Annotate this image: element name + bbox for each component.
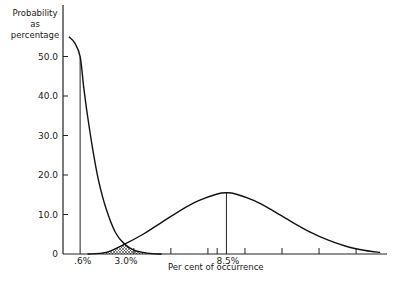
y-tick-label: 0 <box>0 249 58 259</box>
chart-plot <box>0 0 397 285</box>
x-tick-label: .6% <box>74 256 91 266</box>
y-axis-label: Probability as percentage <box>10 8 60 41</box>
y-tick-label: 10.0 <box>0 210 58 220</box>
y-tick-label: 50.0 <box>0 52 58 62</box>
left-distribution-curve <box>69 37 162 254</box>
right-distribution-curve <box>88 193 381 254</box>
y-tick-label: 40.0 <box>0 91 58 101</box>
x-tick-label: 3.0% <box>115 256 138 266</box>
plot-area <box>63 5 387 254</box>
y-tick-label: 20.0 <box>0 170 58 180</box>
y-tick-label: 30.0 <box>0 131 58 141</box>
overlap-hatched-region <box>88 244 162 254</box>
x-axis-label: Per cent of occurrence <box>168 262 264 272</box>
